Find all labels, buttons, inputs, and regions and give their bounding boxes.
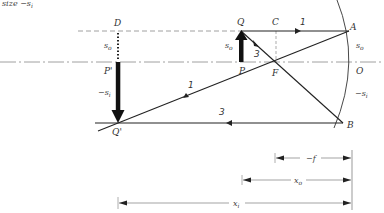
label-q: Q (237, 17, 245, 27)
dimension-neg-f: −f (275, 153, 351, 163)
ray-3-reflected-arrow-icon (226, 120, 232, 126)
label-ray-3-bottom: 3 (219, 107, 225, 117)
label-f: F (271, 68, 279, 78)
label-d: D (113, 18, 121, 28)
ray-1-arrow-icon (295, 28, 301, 34)
image-arrow (116, 62, 121, 112)
label-s-o-right: so (356, 41, 364, 51)
label-x-o: xo (294, 176, 303, 186)
label-ray-1-bottom: 1 (188, 80, 194, 90)
label-q-prime: Q' (112, 127, 122, 137)
object-arrow (239, 38, 244, 62)
concave-mirror (334, 0, 349, 128)
label-p-prime: P' (103, 66, 113, 76)
label-a: A (349, 22, 357, 32)
label-c: C (272, 17, 279, 27)
label-neg-f: −f (306, 154, 318, 163)
label-s-o-object: so (225, 41, 233, 51)
label-p: P (238, 66, 246, 76)
concave-mirror-ray-diagram: size −si D Q C A P F O P' Q' B so −si so… (0, 0, 384, 213)
label-s-o-left: so (104, 41, 112, 51)
label-neg-s-i-right: −si (355, 89, 368, 99)
dimension-x-i: xi (118, 197, 351, 209)
label-x-i: xi (233, 199, 240, 209)
label-ray-3-mid: 3 (254, 49, 260, 59)
label-ray-1-top: 1 (300, 17, 306, 27)
label-neg-s-i-left: −si (98, 88, 111, 98)
label-b: B (346, 120, 354, 130)
caption-fragment: size −si (2, 0, 33, 9)
label-o: O (356, 66, 364, 76)
dimension-x-o: xo (242, 175, 351, 186)
